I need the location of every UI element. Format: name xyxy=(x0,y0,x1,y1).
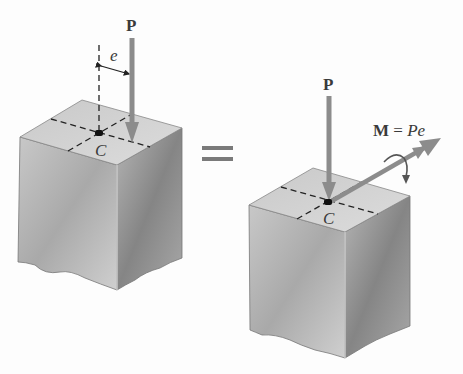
left-force-arrow xyxy=(125,38,139,143)
eccentric-load-diagram: e C P xyxy=(0,0,463,374)
equals-sign xyxy=(202,146,233,161)
diagram-canvas: e C P xyxy=(0,0,463,374)
left-centroid-point xyxy=(95,130,103,136)
left-centroid-label: C xyxy=(95,141,107,160)
moment-label: M = Pe xyxy=(373,121,426,140)
left-force-label: P xyxy=(126,16,136,35)
moment-label-equals: = xyxy=(389,121,407,140)
right-force-label: P xyxy=(323,75,333,94)
right-block: P C M = Pe xyxy=(249,75,441,358)
eccentricity-dimension-arrow xyxy=(101,66,129,74)
right-force-arrow xyxy=(322,96,336,201)
moment-label-symbol: M xyxy=(373,121,389,140)
left-block: e C P xyxy=(18,16,182,290)
right-centroid-label: C xyxy=(323,209,335,228)
right-centroid-point xyxy=(324,199,332,205)
eccentricity-label: e xyxy=(110,46,118,65)
moment-label-expression: Pe xyxy=(406,121,425,140)
